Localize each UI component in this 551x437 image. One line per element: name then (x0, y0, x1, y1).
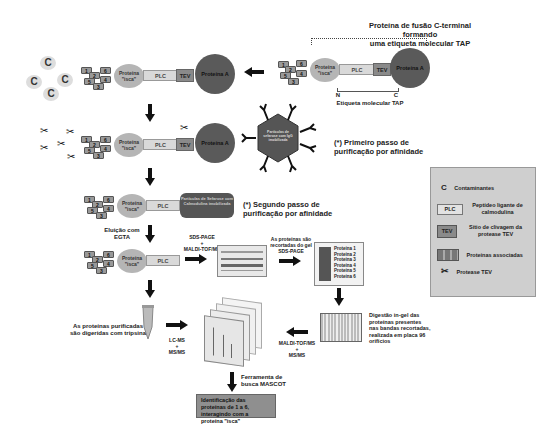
mascot-line2: busca MASCOT (241, 381, 301, 388)
n-terminal-label: N (334, 92, 342, 99)
plc-segment: PLC (339, 64, 375, 75)
first-step-line1: (*) Primeiro passo de (334, 138, 424, 147)
trypsin-line2: são digeridas com tripsina (66, 330, 150, 337)
lcms-line3: MS/MS (164, 349, 190, 355)
bait-protein: Proteína "isca" (117, 194, 147, 218)
assoc-protein-4: 4 (103, 205, 114, 212)
plc-segment: PLC (146, 255, 180, 266)
legend-label: Proteínas associadas (467, 252, 523, 258)
elution-line1: Eluição com (102, 227, 142, 234)
assoc-protein-6: 6 (103, 196, 114, 203)
legend-label: Peptídeo ligante de calmodulina (469, 202, 527, 216)
gel-cut-label: As proteínas são recortadas do gel SDS-P… (268, 236, 314, 254)
arrow-right-icon (166, 320, 188, 330)
legend-label: Contaminantes (454, 185, 494, 191)
bait-label-2: "isca" (114, 145, 144, 151)
scissors-icon: ✂ (67, 151, 75, 162)
assoc-protein-4: 4 (100, 145, 111, 152)
mascot-label: Ferramenta de busca MASCOT (241, 374, 301, 388)
cut-line3: SDS-PAGE (268, 248, 314, 254)
gel-band (221, 258, 263, 260)
plc-segment: PLC (143, 139, 178, 150)
contaminant-icon: C (441, 183, 447, 192)
96-well-plate (320, 313, 362, 342)
gel-band (221, 270, 263, 271)
assoc-protein-4: 4 (103, 260, 114, 267)
elution-egta-label: Eluição com EGTA (102, 227, 142, 241)
arrow-down-icon (145, 280, 155, 298)
protein-a-label: Proteína A (201, 71, 228, 77)
tev-site: TEV (176, 138, 194, 151)
assoc-protein-6: 6 (296, 60, 307, 67)
assoc-protein-3: 3 (93, 83, 104, 90)
protein-a-label: Proteína A (396, 65, 423, 71)
legend-label: Sítio de clivagem da protease TEV (465, 224, 527, 238)
legend-item-tev-protease: ✂ Protease TEV (441, 268, 492, 276)
first-step-line2: purificação por afinidade (334, 147, 424, 156)
protein-6-label: Proteína 6 (334, 274, 356, 280)
arrow-right-icon (185, 254, 207, 264)
second-step-line1: (*) Segundo passo de (243, 200, 343, 209)
scissors-icon: ✂ (441, 266, 449, 276)
excised-bands-panel: Proteína 1 Proteína 2 Proteína 3 Proteín… (314, 242, 364, 286)
scissors-icon: ✂ (57, 138, 65, 149)
bait-protein: Proteína "isca" (114, 64, 144, 88)
tap-tag-label: Etiqueta molecular TAP (330, 100, 410, 107)
tev-site: TEV (176, 69, 194, 82)
assoc-protein-3: 3 (96, 267, 107, 274)
gel-band (221, 264, 263, 267)
second-purification-step: (*) Segundo passo de purificação por afi… (243, 200, 343, 218)
protein-a: Proteína A (195, 123, 235, 163)
protein-list: Proteína 1 Proteína 2 Proteína 3 Proteín… (334, 246, 356, 279)
protein-a-label: Proteína A (201, 140, 228, 146)
arrow-left-icon (286, 327, 308, 337)
eppendorf-tube-icon (141, 305, 155, 341)
assoc-protein-3: 3 (96, 212, 107, 219)
tev-icon: TEV (437, 225, 457, 238)
tap-tag-line (337, 88, 399, 92)
legend-item-tev: TEV Sítio de clivagem da protease TEV (437, 224, 527, 238)
assoc-protein-3: 3 (288, 78, 299, 85)
maldi-msms-label: MALDI-TOF/MS + MS/MS (272, 340, 322, 358)
maldi-line3: MS/MS (272, 352, 322, 358)
excised-lane (319, 247, 331, 281)
scissors-icon: ✂ (40, 125, 48, 136)
bait-label-2: "isca" (117, 206, 147, 212)
first-purification-step: (*) Primeiro passo de purificação por af… (334, 138, 424, 156)
igg-bead-label: Partículas de sefarose com IgG imobiliza… (260, 130, 296, 142)
assoc-protein-6: 6 (103, 251, 114, 258)
c-terminal-label: C (392, 92, 400, 99)
scissors-icon: ✂ (40, 142, 48, 153)
assoc-protein-4: 4 (100, 76, 111, 83)
digest-line5: orifícios (369, 338, 449, 345)
arrow-down-icon (145, 168, 155, 186)
scissors-icon: ✂ (66, 126, 74, 137)
mascot-line1: Ferramenta de (241, 374, 301, 381)
legend-item-associated-proteins: Proteínas associadas (437, 249, 523, 261)
legend-item-plc: PLC Peptídeo ligante de calmodulina (437, 202, 527, 216)
lcms-label: LC-MS + MS/MS (164, 337, 190, 355)
bait-label-2: "isca" (114, 76, 144, 82)
scissors-icon: ✂ (180, 122, 188, 133)
arrow-left-icon (244, 67, 264, 77)
protein-5-label: Proteína 5 (334, 268, 356, 274)
fusion-bracket (311, 38, 427, 45)
arrow-down-icon (334, 288, 344, 306)
elution-line2: EGTA (102, 234, 142, 241)
contaminant-1: C (40, 56, 56, 70)
assoc-protein-4: 4 (296, 70, 307, 77)
bait-label-2: "isca" (310, 70, 340, 76)
bait-protein: Proteína "isca" (310, 58, 340, 82)
contaminant-2: C (26, 75, 42, 89)
bait-label-2: "isca" (117, 261, 147, 267)
sds-page-gel (217, 245, 267, 277)
protein-a: Proteína A (390, 48, 430, 88)
gel-band (221, 251, 263, 253)
protein-a: Proteína A (195, 54, 235, 94)
contaminant-4: C (43, 87, 59, 101)
spectrum-card (204, 315, 244, 367)
legend-label: Protease TEV (457, 269, 492, 275)
assoc-protein-6: 6 (100, 136, 111, 143)
plc-segment: PLC (143, 70, 178, 81)
plc-segment: PLC (146, 200, 180, 211)
